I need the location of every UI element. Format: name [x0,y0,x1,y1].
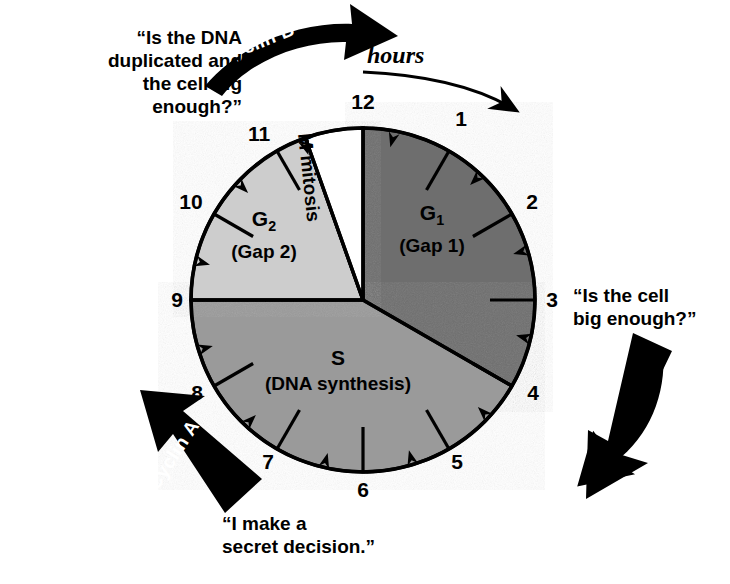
hour-number-6: 6 [349,478,377,502]
phase-label-g2-subscript: 2 [268,218,276,234]
hour-number-2: 2 [518,190,546,214]
checkpoint-quote-secret-decision: “I make a secret decision.” [222,512,452,558]
phase-label-g1-name: G1 [385,200,479,233]
hour-number-7: 7 [254,450,282,474]
phase-label-g2-subtitle: (Gap 2) [212,239,316,265]
phase-label-s-subtitle: (DNA synthesis) [243,371,433,397]
hour-number-11: 11 [243,122,275,146]
hour-number-4: 4 [519,381,547,405]
phase-label-g2: G2 (Gap 2) [212,206,316,265]
phase-label-g1-subscript: 1 [436,212,444,228]
hours-axis-label: hours [367,42,424,69]
hour-number-8: 8 [183,381,211,405]
checkpoint-quote-cell-big: “Is the cell big enough?” [573,284,730,330]
phase-label-s-name: S [243,345,433,371]
phase-label-g1-subtitle: (Gap 1) [385,233,479,259]
phase-label-g1: G1 (Gap 1) [385,200,479,259]
cell-cycle-diagram: hours 12 1 2 3 4 5 6 7 8 9 10 11 G1 (Gap… [0,0,730,584]
hours-direction-arrow [363,72,512,108]
hour-number-3: 3 [538,288,566,312]
hour-number-10: 10 [175,190,207,214]
phase-label-m-name: M [294,132,318,151]
hour-number-1: 1 [447,107,475,131]
hour-number-5: 5 [443,450,471,474]
phase-label-s: S (DNA synthesis) [243,345,433,397]
hour-number-9: 9 [163,288,191,312]
checkpoint-quote-dna-duplicated: “Is the DNA duplicated and the cell big … [62,26,242,118]
hour-number-12: 12 [343,90,383,114]
